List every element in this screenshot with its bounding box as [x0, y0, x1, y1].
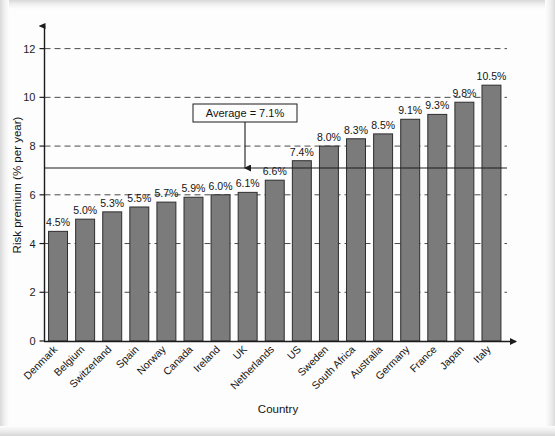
- bar-value-label: 6.0%: [209, 180, 233, 192]
- average-callout-label: Average = 7.1%: [206, 107, 285, 119]
- bar[interactable]: [49, 231, 68, 341]
- bar-value-label: 5.0%: [73, 204, 97, 216]
- category-label: UK: [230, 343, 249, 362]
- y-axis-title: Risk premium (% per year): [11, 116, 23, 253]
- bar[interactable]: [157, 202, 176, 341]
- bar-value-label: 9.1%: [398, 104, 422, 116]
- bar-chart: 024681012 4.5%5.0%5.3%5.5%5.7%5.9%6.0%6.…: [0, 0, 555, 436]
- bar[interactable]: [401, 119, 420, 341]
- bar-value-label: 4.5%: [46, 216, 70, 228]
- bar[interactable]: [76, 219, 95, 341]
- y-axis-tick-group: 024681012: [23, 43, 44, 347]
- bar-value-label: 8.3%: [344, 124, 368, 136]
- bar-value-label: 6.6%: [263, 165, 287, 177]
- y-axis-tick-label: 2: [29, 286, 35, 298]
- bar-value-label: 5.5%: [127, 192, 151, 204]
- bar-value-label: 5.9%: [182, 182, 206, 194]
- bar[interactable]: [428, 114, 447, 341]
- bar-value-label: 9.3%: [425, 99, 449, 111]
- bar[interactable]: [130, 207, 149, 341]
- y-axis-tick-label: 6: [29, 189, 35, 201]
- bar[interactable]: [319, 146, 338, 341]
- y-axis-tick-label: 12: [23, 43, 35, 55]
- category-label-group: DenmarkBelgiumSwitzerlandSpainNorwayCana…: [21, 342, 494, 391]
- bar[interactable]: [103, 212, 122, 341]
- y-axis-tick-label: 4: [29, 238, 35, 250]
- bar[interactable]: [265, 180, 284, 341]
- bar-value-label: 8.0%: [317, 131, 341, 143]
- bar[interactable]: [292, 161, 311, 341]
- category-label: US: [284, 343, 303, 362]
- y-axis-tick-label: 10: [23, 91, 35, 103]
- category-label: Canada: [160, 343, 195, 378]
- category-label: Japan: [437, 343, 466, 372]
- category-label: Ireland: [191, 343, 222, 374]
- bar[interactable]: [347, 139, 366, 341]
- y-axis-tick-label: 0: [29, 335, 35, 347]
- category-label: France: [407, 343, 439, 375]
- bar-value-label: 8.5%: [371, 119, 395, 131]
- bar[interactable]: [455, 102, 474, 341]
- bar[interactable]: [374, 134, 393, 341]
- bar-value-label: 10.5%: [477, 70, 507, 82]
- bar-value-label: 5.3%: [100, 197, 124, 209]
- bar-value-label: 9.8%: [452, 87, 476, 99]
- x-axis-title: Country: [258, 403, 299, 415]
- bar[interactable]: [482, 85, 501, 341]
- bar[interactable]: [211, 195, 230, 341]
- y-axis-tick-label: 8: [29, 140, 35, 152]
- bar-value-label: 7.4%: [290, 146, 314, 158]
- category-label: Italy: [471, 342, 494, 365]
- category-label: Denmark: [21, 342, 60, 381]
- chart-page: 024681012 4.5%5.0%5.3%5.5%5.7%5.9%6.0%6.…: [0, 0, 555, 436]
- bar-value-label: 6.1%: [236, 177, 260, 189]
- bar[interactable]: [238, 192, 257, 341]
- bar-value-label: 5.7%: [154, 187, 178, 199]
- bar[interactable]: [184, 197, 203, 341]
